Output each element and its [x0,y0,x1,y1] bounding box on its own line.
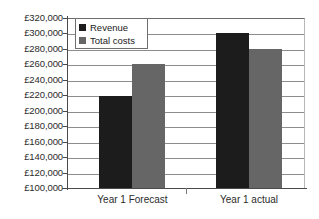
y-axis-tick-label: £100,000 [3,183,63,193]
x-axis-line [62,188,307,189]
y-axis-tick-mark [63,126,68,127]
y-axis-tick-label: £180,000 [3,121,63,131]
y-axis-tick-mark [63,142,68,143]
y-axis-tick-mark [63,157,68,158]
bar-total-costs [249,49,282,188]
y-axis-tick-label: £140,000 [3,152,63,162]
y-axis-tick-label: £160,000 [3,137,63,147]
bar-revenue [216,33,249,188]
y-axis-tick-mark [63,95,68,96]
legend-label-revenue: Revenue [90,23,128,33]
y-axis-line [67,16,68,190]
chart-legend: Revenue Total costs [75,18,148,49]
y-axis-tick-label: £240,000 [3,75,63,85]
legend-swatch-total-costs-icon [79,37,86,44]
y-axis-tick-label: £260,000 [3,59,63,69]
y-axis-tick-label: £200,000 [3,106,63,116]
legend-label-total-costs: Total costs [90,36,135,46]
y-axis-tick-label: £120,000 [3,168,63,178]
bar-revenue [99,96,132,188]
legend-item-total-costs: Total costs [79,34,144,47]
y-axis-tick-mark [63,188,68,189]
y-axis-tick-mark [63,80,68,81]
x-axis-tick-label: Year 1 Forecast [72,194,192,206]
y-axis-tick-mark [63,33,68,34]
y-axis-tick-label: £280,000 [3,44,63,54]
y-axis-tick-label: £220,000 [3,90,63,100]
x-axis-tick-label: Year 1 actual [189,194,309,206]
y-axis-tick-mark [63,173,68,174]
bar-chart: £320,000£300,000£280,000£260,000£240,000… [0,0,319,219]
y-axis-tick-mark [63,18,68,19]
legend-item-revenue: Revenue [79,21,144,34]
y-axis-tick-mark [63,49,68,50]
y-axis-labels: £320,000£300,000£280,000£260,000£240,000… [0,0,63,219]
bar-total-costs [132,64,165,188]
y-axis-tick-label: £300,000 [3,28,63,38]
y-axis-tick-mark [63,111,68,112]
legend-swatch-revenue-icon [79,24,86,31]
y-axis-tick-label: £320,000 [3,13,63,23]
y-axis-tick-mark [63,64,68,65]
